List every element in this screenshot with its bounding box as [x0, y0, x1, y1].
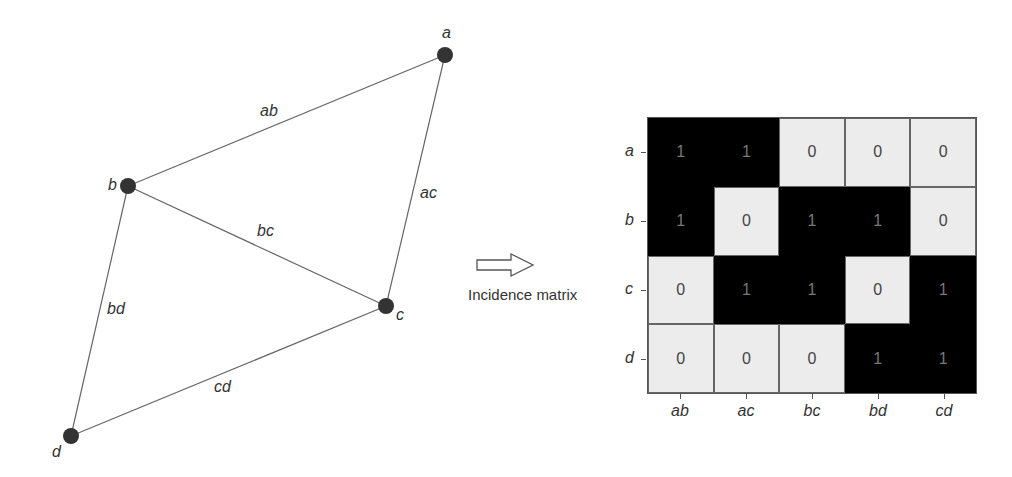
node-label-a: a — [442, 24, 451, 42]
matrix-cell-d-ac: 0 — [714, 324, 780, 393]
matrix-cell-c-ac: 1 — [714, 256, 780, 325]
edge-label-ab: ab — [260, 102, 278, 120]
edge-cd — [71, 306, 386, 436]
node-b — [120, 178, 136, 194]
edge-ab — [128, 55, 445, 186]
edge-label-bd: bd — [107, 300, 125, 318]
row-label-a: a — [625, 142, 634, 160]
row-tick — [641, 221, 646, 222]
matrix-cell-d-bc: 0 — [779, 324, 845, 393]
col-label-bc: bc — [792, 402, 832, 420]
col-label-ac: ac — [726, 402, 766, 420]
edge-bc — [128, 186, 386, 306]
right-arrow-icon — [475, 252, 537, 282]
row-label-c: c — [625, 280, 633, 298]
matrix-cell-a-ac: 1 — [714, 118, 780, 187]
col-tick — [746, 394, 747, 399]
node-label-c: c — [396, 306, 404, 324]
matrix-cell-d-ab: 0 — [648, 324, 714, 393]
edge-ac — [386, 55, 445, 306]
col-label-cd: cd — [924, 402, 964, 420]
node-d — [63, 428, 79, 444]
matrix-cell-b-bd: 1 — [845, 187, 911, 256]
col-label-bd: bd — [858, 402, 898, 420]
row-label-b: b — [625, 211, 634, 229]
matrix-cell-d-cd: 1 — [910, 324, 976, 393]
matrix-cell-a-bc: 0 — [779, 118, 845, 187]
matrix-cell-b-cd: 0 — [910, 187, 976, 256]
col-tick — [680, 394, 681, 399]
node-label-b: b — [108, 176, 117, 194]
row-tick — [641, 152, 646, 153]
arrow-caption: Incidence matrix — [468, 286, 577, 303]
matrix-cell-d-bd: 1 — [845, 324, 911, 393]
node-c — [378, 298, 394, 314]
matrix-cell-a-cd: 0 — [910, 118, 976, 187]
incidence-matrix: 11000101100110100011 — [647, 117, 977, 394]
edge-label-bc: bc — [257, 222, 274, 240]
matrix-cell-a-ab: 1 — [648, 118, 714, 187]
matrix-cell-b-ac: 0 — [714, 187, 780, 256]
matrix-cell-c-cd: 1 — [910, 256, 976, 325]
matrix-cell-c-bd: 0 — [845, 256, 911, 325]
edge-label-ac: ac — [420, 184, 437, 202]
matrix-cell-b-ab: 1 — [648, 187, 714, 256]
col-tick — [878, 394, 879, 399]
col-tick — [812, 394, 813, 399]
row-tick — [641, 290, 646, 291]
row-label-d: d — [625, 349, 634, 367]
row-tick — [641, 359, 646, 360]
matrix-cell-c-bc: 1 — [779, 256, 845, 325]
matrix-cell-b-bc: 1 — [779, 187, 845, 256]
col-tick — [944, 394, 945, 399]
edge-label-cd: cd — [214, 378, 231, 396]
node-label-d: d — [52, 443, 61, 461]
matrix-cell-a-bd: 0 — [845, 118, 911, 187]
node-a — [437, 47, 453, 63]
matrix-cell-c-ab: 0 — [648, 256, 714, 325]
col-label-ab: ab — [660, 402, 700, 420]
